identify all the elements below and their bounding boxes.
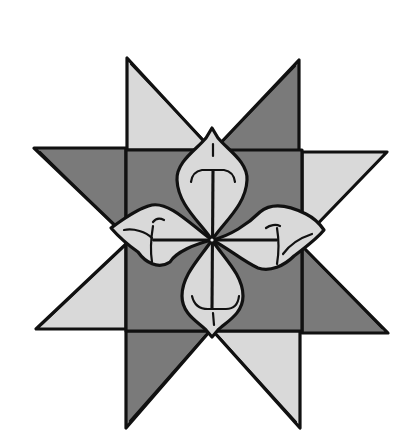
point-right-bottom	[302, 246, 388, 333]
paper-star-illustration: Folded paper eight-pointed star with fou…	[0, 0, 415, 447]
star-drawing	[0, 0, 415, 447]
point-left-top	[34, 148, 126, 236]
point-bottom-right	[213, 331, 300, 428]
point-top-left	[127, 58, 212, 150]
point-top-right	[212, 60, 299, 152]
point-left-bottom	[36, 244, 126, 329]
point-bottom-left	[126, 331, 210, 428]
